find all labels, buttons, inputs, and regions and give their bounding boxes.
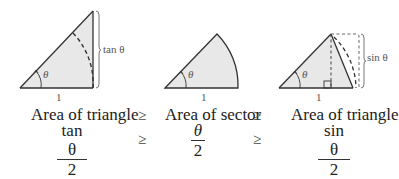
triangle-sin-figure xyxy=(279,34,366,88)
denominator: 2 xyxy=(191,141,205,160)
fraction-tan: tan θ 2 xyxy=(57,121,87,179)
geq-symbol: ≥ xyxy=(138,107,146,124)
geq-symbol: ≥ xyxy=(138,131,146,148)
fraction-theta: θ 2 xyxy=(191,121,205,160)
numerator: θ xyxy=(191,121,205,141)
geq-symbol: ≥ xyxy=(253,107,261,124)
denominator: 2 xyxy=(318,160,350,179)
denominator: 2 xyxy=(57,160,87,179)
sector-figure xyxy=(165,34,238,88)
tan-label: tan θ xyxy=(103,43,124,55)
diagram-canvas xyxy=(0,0,396,100)
geq-symbol: ≥ xyxy=(253,131,261,148)
base-label-middle: 1 xyxy=(201,91,207,103)
numerator: sin θ xyxy=(318,121,350,160)
sin-label: sin θ xyxy=(367,51,388,63)
caption-sector: Area of sector xyxy=(165,105,261,125)
base-label-right: 1 xyxy=(316,91,322,103)
theta-label-left: θ xyxy=(43,68,48,80)
theta-label-middle: θ xyxy=(188,68,193,80)
numerator: tan θ xyxy=(57,121,87,160)
triangle-tan-figure xyxy=(20,11,101,88)
theta-label-right: θ xyxy=(302,68,307,80)
fraction-sin: sin θ 2 xyxy=(318,121,350,179)
base-label-left: 1 xyxy=(56,91,62,103)
